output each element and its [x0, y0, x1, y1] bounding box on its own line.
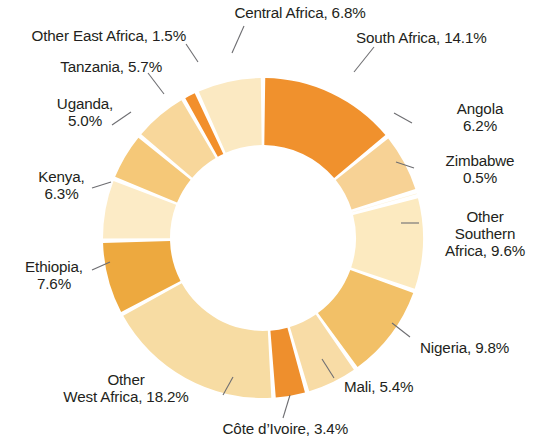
leader-nigeria	[392, 323, 410, 337]
slice-label-tanzania: Tanzania, 5.7%	[22, 58, 162, 75]
slice-label-cote-divoire: Côte d’Ivoire, 3.4%	[173, 420, 348, 437]
donut-chart: Central Africa, 6.8%South Africa, 14.1%O…	[0, 0, 543, 445]
donut-slice[interactable]	[199, 78, 262, 153]
slice-label-nigeria: Nigeria, 9.8%	[420, 339, 543, 356]
slice-label-central-africa: Central Africa, 6.8%	[205, 4, 395, 21]
leader-central-africa	[232, 26, 244, 53]
slice-label-other-west-africa: Other West Africa, 18.2%	[36, 371, 216, 405]
slice-label-mali: Mali, 5.4%	[344, 378, 449, 395]
leader-angola	[394, 113, 412, 123]
slice-label-south-africa: South Africa, 14.1%	[356, 29, 536, 46]
leader-south-africa	[354, 47, 374, 72]
slice-label-ethiopia: Ethiopia, 7.6%	[4, 258, 104, 292]
slice-label-angola: Angola 6.2%	[430, 100, 530, 134]
slice-label-other-east-africa: Other East Africa, 1.5%	[6, 27, 186, 44]
leader-tanzania	[148, 73, 164, 94]
slice-label-zimbabwe: Zimbabwe 0.5%	[425, 152, 535, 186]
leader-other-east-africa	[186, 44, 198, 62]
leader-cote-divoire	[283, 395, 290, 418]
donut-slices	[103, 78, 423, 398]
slice-label-uganda: Uganda, 5.0%	[35, 95, 135, 129]
slice-label-kenya: Kenya, 6.3%	[14, 168, 109, 202]
slice-label-other-southern-africa: Other Southern Africa, 9.6%	[430, 208, 540, 259]
